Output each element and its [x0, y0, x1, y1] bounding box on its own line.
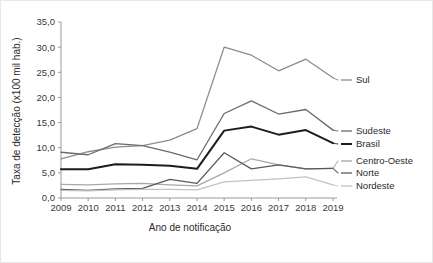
legend-item-sudeste[interactable]: Sudeste: [341, 125, 391, 136]
y-tick-label: 15,0: [37, 117, 56, 128]
x-tick-label: 2016: [241, 202, 262, 213]
y-tick-label: 30,0: [37, 42, 56, 53]
x-tick-label: 2014: [186, 202, 207, 213]
legend-label: Sudeste: [356, 125, 391, 136]
series-line-brasil: [61, 127, 333, 170]
x-tick-label: 2012: [132, 202, 153, 213]
x-axis-title: Ano de notificação: [149, 222, 232, 233]
x-tick-label: 2019: [322, 202, 343, 213]
y-tick-label: 10,0: [37, 142, 56, 153]
y-tick-label: 35,0: [37, 16, 56, 27]
legend-leader-line: [333, 168, 338, 173]
x-tick-label: 2018: [295, 202, 316, 213]
x-tick-label: 2015: [214, 202, 235, 213]
legend-label: Sul: [356, 74, 370, 85]
y-axis-title: Taxa de detecção (x100 mil hab.): [11, 37, 22, 184]
legend-leader-line: [333, 161, 338, 168]
y-tick-label: 25,0: [37, 67, 56, 78]
legend-item-nordeste[interactable]: Nordeste: [341, 180, 395, 191]
y-tick-label: 5,0: [42, 167, 55, 178]
legend-leader-line: [333, 143, 338, 144]
y-tick-label: 20,0: [37, 92, 56, 103]
legend-item-sul[interactable]: Sul: [341, 74, 370, 85]
legend-label: Brasil: [356, 138, 380, 149]
legend-leader-line: [333, 78, 338, 80]
chart-legend: SulSudesteBrasilCentro-OesteNorteNordest…: [341, 74, 413, 191]
x-tick-label: 2010: [78, 202, 99, 213]
legend-leader-line: [333, 185, 338, 186]
legend-item-brasil[interactable]: Brasil: [341, 138, 380, 149]
x-tick-label: 2011: [105, 202, 125, 213]
legend-item-centro-oeste[interactable]: Centro-Oeste: [341, 155, 413, 166]
chart-figure: 0,05,010,015,020,025,030,035,0 200920102…: [0, 0, 433, 263]
series-line-sudeste: [61, 101, 333, 160]
x-tick-label: 2013: [159, 202, 180, 213]
y-axis-tick-labels: 0,05,010,015,020,025,030,035,0: [37, 16, 56, 203]
legend-label: Norte: [356, 167, 379, 178]
legend-label: Centro-Oeste: [356, 155, 413, 166]
series-line-centro-oeste: [61, 159, 333, 186]
line-chart: 0,05,010,015,020,025,030,035,0 200920102…: [1, 1, 433, 263]
legend-leader-line: [333, 130, 338, 131]
x-axis-tick-labels: 2009201020112012201320142015201620172018…: [50, 202, 343, 213]
legend-label: Nordeste: [356, 180, 395, 191]
x-tick-label: 2009: [50, 202, 71, 213]
legend-item-norte[interactable]: Norte: [341, 167, 379, 178]
data-series-group: [61, 47, 338, 191]
x-tick-label: 2017: [268, 202, 289, 213]
series-line-sul: [61, 47, 333, 159]
